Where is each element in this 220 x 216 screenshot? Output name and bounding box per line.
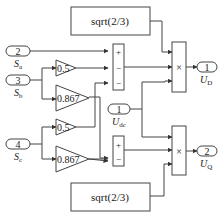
gain-c-0-867-value: 0.867 — [57, 154, 80, 165]
inport-sc-label: Sc — [14, 151, 22, 164]
gain-c-0-5-value: 0.5 — [57, 122, 70, 133]
wire-udc-to-prod-q — [142, 109, 172, 137]
outport-ud-number: 1 — [205, 62, 210, 73]
simulink-diagram: sqrt(2/3) sqrt(2/3) 2 Sa 3 Sb 4 Sc 1 Udc… — [0, 0, 220, 216]
gain-c-0-5[interactable]: 0.5 — [56, 119, 76, 135]
gain-b-0-867-value: 0.867 — [57, 93, 80, 104]
wire-gainc05-to-sum-d — [76, 83, 108, 127]
inport-udc[interactable]: 1 Udc — [108, 104, 130, 129]
inport-sa-number: 2 — [16, 46, 21, 57]
inport-sb[interactable]: 3 Sb — [6, 75, 30, 100]
sum-d-sign-1: + — [116, 47, 121, 57]
gain-b-0-5[interactable]: 0.5 — [56, 60, 76, 76]
inport-sa[interactable]: 2 Sa — [6, 46, 30, 71]
constant-bottom-value: sqrt(2/3) — [91, 191, 129, 204]
sum-block-d[interactable]: + − − — [113, 44, 124, 90]
product-d-symbol: × — [176, 62, 182, 73]
outport-ud-label: UD — [200, 74, 212, 87]
sum-d-sign-3: − — [116, 78, 121, 88]
wire-const-top-to-prod-d — [150, 21, 172, 52]
wire-sc-split — [30, 127, 42, 159]
sum-d-sign-2: − — [116, 63, 121, 73]
inport-udc-number: 1 — [117, 104, 122, 115]
outport-uq-label: UQ — [200, 158, 212, 171]
gain-c-0-867[interactable]: 0.867 — [56, 146, 89, 172]
constant-top-value: sqrt(2/3) — [91, 15, 129, 28]
sum-q-sign-2: − — [116, 154, 121, 164]
inport-sb-number: 3 — [16, 75, 21, 86]
gain-b-0-867[interactable]: 0.867 — [56, 85, 89, 111]
product-q-symbol: × — [176, 146, 182, 157]
sum-block-q[interactable]: + − — [113, 136, 124, 166]
outport-uq-number: 2 — [205, 146, 210, 157]
inport-sc-number: 4 — [16, 139, 21, 150]
gain-b-0-5-value: 0.5 — [57, 63, 70, 74]
outport-ud[interactable]: 1 UD — [197, 62, 217, 87]
inport-sc[interactable]: 4 Sc — [6, 139, 30, 164]
inport-sa-label: Sa — [14, 58, 23, 71]
constant-block-top[interactable]: sqrt(2/3) — [71, 7, 150, 35]
product-block-q[interactable]: × — [172, 126, 186, 175]
inport-sb-label: Sb — [14, 87, 23, 100]
inport-udc-label: Udc — [112, 116, 126, 129]
constant-block-bottom[interactable]: sqrt(2/3) — [71, 183, 150, 211]
sum-q-sign-1: + — [116, 140, 121, 150]
product-block-d[interactable]: × — [172, 42, 186, 92]
wire-gainc0867-to-sum-q — [89, 159, 108, 161]
wire-const-bottom-to-prod-q — [150, 164, 172, 196]
wire-udc-split — [130, 81, 172, 109]
wire-sb-split — [30, 68, 42, 99]
outport-uq[interactable]: 2 UQ — [197, 146, 217, 171]
